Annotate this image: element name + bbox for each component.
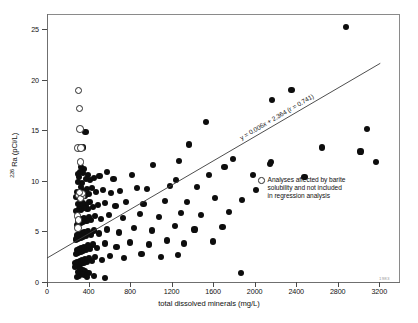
legend-line-3: in regression analysis xyxy=(268,192,330,199)
figure-scatter-plot: 0510152025 04008001200160020002400280032… xyxy=(0,0,418,323)
x-axis-title: total dissolved minerals (mg/L) xyxy=(0,299,418,308)
regression-line xyxy=(47,63,380,258)
legend-text: Analyses affected by barite solubility a… xyxy=(268,176,346,200)
open-circle-icon xyxy=(258,177,265,184)
legend-row: Analyses affected by barite solubility a… xyxy=(258,176,392,200)
legend-line-2: solubility and not included xyxy=(268,184,342,191)
figure-number: 1983 xyxy=(379,276,390,281)
legend: Analyses affected by barite solubility a… xyxy=(258,176,392,200)
legend-line-1: Analyses affected by barite xyxy=(268,176,346,183)
y-axis-title-superscript: 226 xyxy=(9,169,15,178)
regression-line-svg xyxy=(0,0,418,323)
y-axis-title: 226 Ra (pCi/L) xyxy=(9,100,20,210)
y-axis-title-text: Ra (pCi/L) xyxy=(10,133,19,169)
